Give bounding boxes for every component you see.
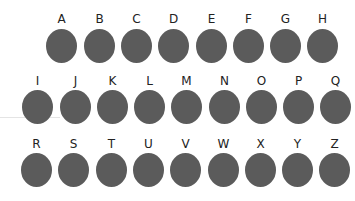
letter-label: H xyxy=(307,13,338,25)
letter-circle-button[interactable] xyxy=(21,153,52,187)
letter-circle-button[interactable] xyxy=(283,90,314,124)
letter-circle-button[interactable] xyxy=(96,153,127,187)
letter-label: V xyxy=(170,138,201,150)
letter-circle-button[interactable] xyxy=(282,153,313,187)
letter-label: S xyxy=(58,138,89,150)
letter-label: Q xyxy=(320,75,351,87)
letter-label: X xyxy=(245,138,276,150)
letter-circle-button[interactable] xyxy=(196,29,227,63)
letter-label: W xyxy=(208,138,239,150)
letter-circle-button[interactable] xyxy=(134,90,165,124)
letter-circle-button[interactable] xyxy=(209,90,240,124)
letter-label: K xyxy=(97,75,128,87)
letter-label: E xyxy=(196,13,227,25)
letter-circle-button[interactable] xyxy=(319,153,350,187)
letter-label: Y xyxy=(282,138,313,150)
letter-circle-button[interactable] xyxy=(60,90,91,124)
letter-circle-button[interactable] xyxy=(171,90,202,124)
letter-label: M xyxy=(171,75,202,87)
letter-label: F xyxy=(233,13,264,25)
letter-circle-button[interactable] xyxy=(46,29,77,63)
letter-label: Z xyxy=(319,138,350,150)
letter-label: U xyxy=(133,138,164,150)
letter-label: P xyxy=(283,75,314,87)
letter-circle-button[interactable] xyxy=(58,153,89,187)
letter-circle-button[interactable] xyxy=(170,153,201,187)
letter-label: L xyxy=(134,75,165,87)
letter-circle-button[interactable] xyxy=(246,90,277,124)
letter-circle-button[interactable] xyxy=(121,29,152,63)
letter-label: G xyxy=(270,13,301,25)
letter-circle-button[interactable] xyxy=(22,90,53,124)
letter-circle-button[interactable] xyxy=(307,29,338,63)
letter-label: B xyxy=(84,13,115,25)
letter-circle-button[interactable] xyxy=(158,29,189,63)
letter-circle-button[interactable] xyxy=(320,90,351,124)
letter-circle-button[interactable] xyxy=(208,153,239,187)
letter-circle-button[interactable] xyxy=(270,29,301,63)
letter-label: J xyxy=(60,75,91,87)
letter-label: I xyxy=(22,75,53,87)
letter-circle-button[interactable] xyxy=(97,90,128,124)
letter-circle-button[interactable] xyxy=(245,153,276,187)
letter-label: D xyxy=(158,13,189,25)
letter-label: A xyxy=(46,13,77,25)
letter-label: T xyxy=(96,138,127,150)
letter-circle-button[interactable] xyxy=(233,29,264,63)
letter-label: R xyxy=(21,138,52,150)
letter-circle-button[interactable] xyxy=(84,29,115,63)
letter-circle-button[interactable] xyxy=(133,153,164,187)
letter-label: C xyxy=(121,13,152,25)
letter-label: O xyxy=(246,75,277,87)
letter-label: N xyxy=(209,75,240,87)
